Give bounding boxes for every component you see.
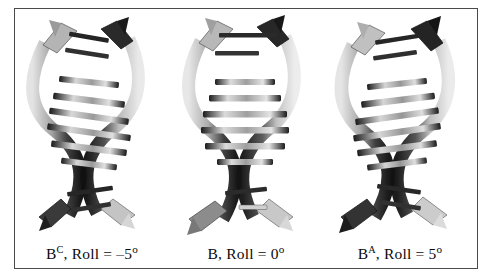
caption-bc-degree: o: [132, 242, 138, 254]
caption-ba-value: 5: [429, 245, 437, 262]
backbone-ribbon-back: [341, 45, 388, 217]
dna-helix-svg-b: [171, 9, 321, 237]
caption-ba-separator: , Roll =: [376, 245, 429, 262]
caption-ba-degree: o: [437, 242, 443, 254]
strand-terminus-arrow-top: [351, 16, 443, 61]
caption-b: B, Roll = 0o: [171, 245, 321, 263]
caption-bc-superscript: C: [57, 243, 64, 254]
strand-terminus-arrow-bottom: [187, 187, 293, 235]
caption-bc-base: B: [46, 245, 57, 262]
dna-structure-b: [171, 9, 321, 237]
dna-structure-ba: [325, 9, 475, 237]
strand-terminus-arrow-top: [43, 17, 133, 59]
label-row: BC, Roll = –5o B, Roll = 0o BA, Roll = 5…: [15, 237, 477, 270]
caption-b-separator: , Roll =: [218, 245, 271, 262]
caption-b-value: 0: [271, 245, 279, 262]
caption-ba-base: B: [358, 245, 369, 262]
caption-ba: BA, Roll = 5o: [325, 245, 475, 263]
caption-bc: BC, Roll = –5o: [17, 245, 167, 263]
figure-panel: BC, Roll = –5o B, Roll = 0o BA, Roll = 5…: [14, 8, 478, 269]
caption-b-degree: o: [279, 242, 285, 254]
helix-row: [15, 9, 477, 237]
dna-structure-bc: [17, 9, 167, 237]
dna-helix-svg-bc: [17, 9, 167, 237]
caption-b-base: B: [207, 245, 218, 262]
strand-terminus-arrow-bottom: [39, 186, 135, 231]
dna-helix-svg-ba: [325, 9, 475, 237]
caption-ba-superscript: A: [368, 243, 376, 254]
strand-terminus-arrow-top: [199, 15, 289, 56]
caption-bc-value: –5: [116, 245, 132, 262]
caption-bc-separator: , Roll =: [64, 245, 117, 262]
